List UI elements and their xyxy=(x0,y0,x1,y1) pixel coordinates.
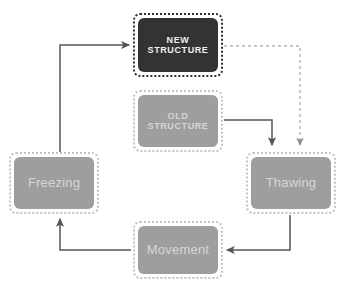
connector-thawing-to-movement xyxy=(227,215,290,250)
node-label-movement: Movement xyxy=(147,243,209,258)
connector-old-structure-to-thawing xyxy=(224,120,272,145)
node-label-thawing: Thawing xyxy=(266,176,317,191)
node-label-new-structure: NEW STRUCTURE xyxy=(148,35,209,55)
connector-freezing-to-new-structure xyxy=(60,45,129,152)
node-body-new-structure: NEW STRUCTURE xyxy=(138,18,218,72)
node-body-old-structure: OLD STRUCTURE xyxy=(138,95,218,147)
node-movement[interactable]: Movement xyxy=(133,221,223,279)
node-freezing[interactable]: Freezing xyxy=(9,152,99,214)
node-thawing[interactable]: Thawing xyxy=(246,152,336,214)
node-body-thawing: Thawing xyxy=(251,157,331,209)
flow-diagram: NEW STRUCTURE OLD STRUCTURE Freezing Tha… xyxy=(0,0,345,288)
connector-movement-to-freezing xyxy=(60,219,131,250)
node-label-old-structure: OLD STRUCTURE xyxy=(148,111,209,131)
node-body-movement: Movement xyxy=(138,226,218,274)
node-new-structure[interactable]: NEW STRUCTURE xyxy=(133,13,223,77)
node-old-structure[interactable]: OLD STRUCTURE xyxy=(133,90,223,152)
connector-new-structure-to-thawing xyxy=(224,46,300,145)
node-body-freezing: Freezing xyxy=(14,157,94,209)
node-label-freezing: Freezing xyxy=(28,176,80,191)
